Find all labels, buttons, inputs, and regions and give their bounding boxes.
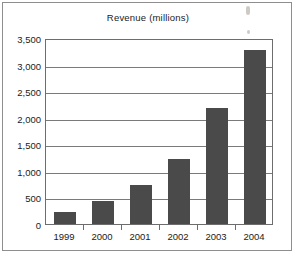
y-tick-label: 3,000: [1, 60, 41, 71]
bar-2000: [92, 201, 114, 224]
gridline: [46, 93, 272, 94]
y-tick-label: 3,500: [1, 34, 41, 45]
scan-artifact-icon: [247, 30, 250, 34]
bar-1999: [54, 212, 76, 224]
bar-2001: [130, 185, 152, 224]
x-tick: [235, 225, 236, 230]
x-tick-label-2002: 2002: [167, 231, 188, 242]
bar-2003: [206, 108, 228, 224]
y-axis-tick-labels: 05001,0001,5002,0002,5003,0003,500: [3, 39, 41, 225]
gridline: [46, 120, 272, 121]
x-tick-label-2004: 2004: [243, 231, 264, 242]
x-tick-label-2003: 2003: [205, 231, 226, 242]
gridline: [46, 173, 272, 174]
plot-area: [45, 39, 273, 225]
gridline: [46, 199, 272, 200]
scan-artifact-icon: [246, 6, 250, 15]
y-tick-label: 1,000: [1, 166, 41, 177]
y-tick-label: 1,500: [1, 140, 41, 151]
gridline: [46, 67, 272, 68]
x-tick-label-2001: 2001: [129, 231, 150, 242]
bar-2004: [244, 50, 266, 224]
x-tick: [83, 225, 84, 230]
x-tick: [121, 225, 122, 230]
y-tick-label: 500: [1, 193, 41, 204]
figure-frame: Revenue (millions) 05001,0001,5002,0002,…: [2, 2, 292, 251]
x-tick: [159, 225, 160, 230]
y-tick-label: 0: [1, 220, 41, 231]
y-tick-label: 2,500: [1, 87, 41, 98]
y-tick-label: 2,000: [1, 113, 41, 124]
bar-2002: [168, 159, 190, 224]
x-tick-label-2000: 2000: [91, 231, 112, 242]
gridline: [46, 146, 272, 147]
x-tick-label-1999: 1999: [53, 231, 74, 242]
x-tick: [197, 225, 198, 230]
x-axis-tick-labels: 199920002001200220032004: [45, 231, 273, 247]
